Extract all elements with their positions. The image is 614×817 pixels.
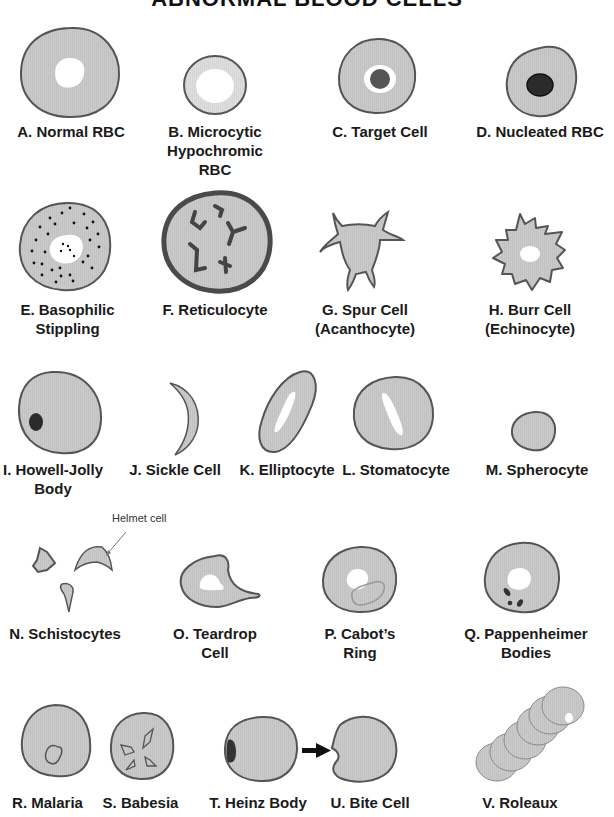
cell-h-burr-cell xyxy=(493,214,565,290)
label-t: T. Heinz Body xyxy=(208,793,308,812)
label-n: N. Schistocytes xyxy=(5,624,125,643)
cell-t-heinz-body xyxy=(225,717,297,781)
cell-a-normal-rbc xyxy=(21,28,119,117)
label-b: B. MicrocyticHypochromicRBC xyxy=(150,122,280,179)
label-u: U. Bite Cell xyxy=(325,793,415,812)
label-c: C. Target Cell xyxy=(320,122,440,141)
cell-u-bite-cell xyxy=(332,717,396,782)
cell-r-malaria xyxy=(22,705,90,776)
cell-f-reticulocyte xyxy=(164,193,270,291)
cell-o-teardrop-cell xyxy=(181,555,260,607)
label-m: M. Spherocyte xyxy=(470,460,604,479)
cell-s-babesia xyxy=(111,713,173,779)
label-k: K. Elliptocyte xyxy=(232,460,342,479)
cell-p-cabots-ring xyxy=(323,547,396,612)
label-a: A. Normal RBC xyxy=(12,122,130,141)
cell-q-pappenheimer-bodies xyxy=(485,543,559,612)
label-h: H. Burr Cell(Echinocyte) xyxy=(475,300,585,338)
arrow-icon xyxy=(302,743,331,758)
label-g: G. Spur Cell(Acanthocyte) xyxy=(305,300,425,338)
label-d: D. Nucleated RBC xyxy=(470,122,610,141)
cell-e-basophilic-stippling xyxy=(20,203,110,290)
label-q: Q. PappenheimerBodies xyxy=(460,624,592,662)
label-f: F. Reticulocyte xyxy=(155,300,275,319)
cell-i-howell-jolly-body xyxy=(19,372,101,453)
cell-k-elliptocyte xyxy=(259,371,315,452)
label-r: R. Malaria xyxy=(5,793,90,812)
helmet-cell-annotation: Helmet cell xyxy=(112,512,166,524)
cell-g-spur-cell xyxy=(320,212,403,290)
cell-n-schistocytes xyxy=(33,532,126,612)
label-i: I. Howell-JollyBody xyxy=(0,460,106,498)
label-v: V. Roleaux xyxy=(475,793,565,812)
label-s: S. Babesia xyxy=(98,793,183,812)
label-o: O. TeardropCell xyxy=(160,624,270,662)
cell-b-microcytic-hypochromic xyxy=(184,56,246,114)
cell-c-target-cell xyxy=(339,39,415,113)
cell-l-stomatocyte xyxy=(354,377,433,449)
cell-j-sickle-cell xyxy=(170,383,198,455)
cell-v-roleaux xyxy=(476,687,584,781)
cell-m-spherocyte xyxy=(512,412,555,450)
label-e: E. BasophilicStippling xyxy=(10,300,125,338)
label-l: L. Stomatocyte xyxy=(337,460,455,479)
cell-d-nucleated-rbc xyxy=(507,47,576,116)
label-p: P. Cabot’sRing xyxy=(320,624,400,662)
label-j: J. Sickle Cell xyxy=(120,460,230,479)
